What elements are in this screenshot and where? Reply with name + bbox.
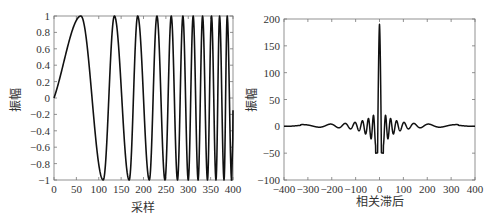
y-tick-label: 0.6 [36,43,50,55]
y-tick-label: 0.8 [36,26,50,38]
left-y-axis-title: 振幅 [8,88,23,112]
x-tick-label: 50 [71,183,83,195]
x-tick-label: 250 [158,183,175,195]
y-tick-label: 200 [264,13,281,25]
y-tick-label: 150 [264,40,281,52]
right-y-axis-title: 振幅 [244,88,259,112]
y-tick-label: 0.4 [36,59,50,71]
y-tick-label: 100 [264,67,281,79]
y-tick-label: −1 [38,174,50,186]
y-tick-label: −50 [263,147,281,159]
y-tick-label: 0 [45,92,51,104]
x-tick-label: 0 [377,183,383,195]
x-tick-label: 200 [135,183,152,195]
y-tick-label: 0 [275,120,281,132]
y-tick-label: −0.2 [30,108,50,120]
autocorrelation-line [284,24,475,153]
x-tick-label: −200 [320,183,343,195]
y-tick-label: −0.6 [30,141,50,153]
x-tick-label: 150 [113,183,130,195]
x-tick-label: 300 [180,183,197,195]
x-tick-label: 400 [467,183,484,195]
right-chart: 200150100500−50−100 −400−300−200−1000100… [244,13,484,209]
left-chart: 10.80.60.40.20−0.2−0.4−0.6−0.8−1 0501001… [8,10,242,215]
x-tick-label: 100 [91,183,108,195]
right-x-axis-title: 相关滞后 [356,195,404,209]
y-tick-label: 50 [269,94,281,106]
y-tick-label: 1 [45,10,51,22]
x-tick-label: 300 [443,183,460,195]
x-tick-label: −300 [297,183,320,195]
y-tick-label: −0.8 [30,158,50,170]
figure: 10.80.60.40.20−0.2−0.4−0.6−0.8−1 0501001… [0,0,499,219]
x-tick-label: 200 [419,183,436,195]
right-y-ticks: 200150100500−50−100 [257,13,475,186]
x-tick-label: −400 [273,183,296,195]
x-tick-label: 100 [395,183,412,195]
x-tick-label: 0 [51,183,57,195]
left-x-axis-title: 采样 [131,200,155,215]
chirp-signal-line [54,16,233,180]
x-tick-label: 350 [202,183,219,195]
y-tick-label: −0.4 [30,125,50,137]
y-tick-label: 0.2 [36,76,50,88]
x-tick-label: 400 [225,183,242,195]
x-tick-label: −100 [344,183,367,195]
